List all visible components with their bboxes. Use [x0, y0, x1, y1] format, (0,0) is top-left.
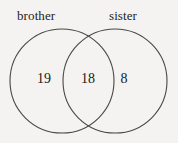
region-count-sister-only: 8 — [114, 72, 134, 86]
region-count-intersection: 18 — [76, 72, 100, 86]
set-label-sister: sister — [109, 9, 137, 22]
set-label-brother: brother — [17, 9, 55, 22]
venn-diagram: brother sister 19 18 8 — [0, 0, 178, 143]
region-count-brother-only: 19 — [32, 72, 56, 86]
